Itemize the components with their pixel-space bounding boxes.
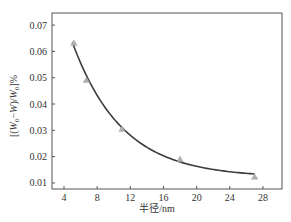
y-axis-ticks: 0.010.020.030.040.050.060.07 <box>30 20 56 189</box>
x-tick-label: 12 <box>125 192 135 203</box>
y-tick-label: 0.03 <box>30 125 48 136</box>
triangle-marker <box>177 156 183 162</box>
chart: 481216202428 0.010.020.030.040.050.060.0… <box>0 0 291 222</box>
plot-frame <box>52 13 282 189</box>
fit-curve <box>72 42 254 174</box>
x-tick-label: 24 <box>225 192 235 203</box>
x-tick-label: 16 <box>158 192 168 203</box>
data-markers <box>71 40 258 180</box>
y-tick-label: 0.06 <box>30 46 48 57</box>
y-tick-label: 0.02 <box>30 151 48 162</box>
y-tick-label: 0.07 <box>30 20 48 31</box>
x-tick-label: 8 <box>95 192 100 203</box>
x-tick-label: 20 <box>192 192 202 203</box>
x-axis-title: 半径/nm <box>139 202 175 214</box>
y-tick-label: 0.04 <box>30 99 48 110</box>
triangle-marker <box>119 126 125 132</box>
y-tick-label: 0.05 <box>30 72 48 83</box>
y-tick-label: 0.01 <box>30 177 48 188</box>
x-tick-label: 28 <box>258 192 268 203</box>
y-axis-title: [(W0−W)/W0]% <box>8 75 21 137</box>
x-tick-label: 4 <box>62 192 67 203</box>
